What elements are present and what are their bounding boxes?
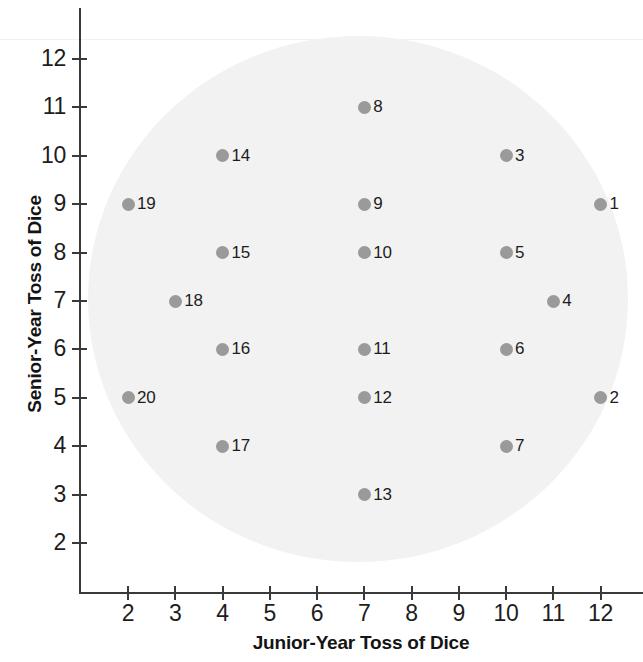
x-axis-tick (600, 586, 602, 600)
x-axis-tick (411, 586, 413, 600)
data-point-marker (358, 343, 371, 356)
data-point-label: 13 (373, 485, 392, 505)
y-axis-tick (72, 445, 87, 447)
data-point-label: 12 (373, 388, 392, 408)
data-point-label: 17 (232, 436, 251, 456)
y-axis-tick (72, 348, 87, 350)
data-point-label: 3 (515, 146, 524, 166)
x-axis-tick (316, 586, 318, 600)
data-point-marker (122, 198, 135, 211)
x-axis-tick (174, 586, 176, 600)
data-point-marker (216, 440, 229, 453)
data-point-label: 5 (515, 243, 524, 263)
data-point-marker (500, 246, 513, 259)
data-point-label: 8 (373, 97, 382, 117)
data-point-label: 4 (562, 291, 571, 311)
data-point-marker (500, 343, 513, 356)
y-axis-tick (72, 58, 87, 60)
data-point-label: 18 (184, 291, 203, 311)
data-point-marker (547, 295, 560, 308)
y-axis-tick (72, 397, 87, 399)
data-point-marker (358, 246, 371, 259)
data-point-marker (594, 198, 607, 211)
y-axis-tick (72, 155, 87, 157)
y-axis-tick (72, 494, 87, 496)
x-axis-tick-label: 12 (571, 600, 631, 627)
data-point-marker (358, 488, 371, 501)
data-point-label: 19 (137, 194, 156, 214)
data-point-label: 14 (232, 146, 251, 166)
data-point-label: 20 (137, 388, 156, 408)
x-axis-line (79, 592, 643, 594)
x-axis-tick (505, 586, 507, 600)
y-axis-tick (72, 203, 87, 205)
data-point-marker (216, 246, 229, 259)
y-axis-tick (72, 300, 87, 302)
y-axis-title: Senior-Year Toss of Dice (24, 4, 46, 604)
scatter-plot-figure: 23456789101112 23456789101112 1234567891… (0, 0, 643, 662)
data-point-marker (358, 391, 371, 404)
data-point-label: 6 (515, 339, 524, 359)
x-axis-tick (127, 586, 129, 600)
data-point-label: 2 (610, 388, 619, 408)
data-point-marker (500, 440, 513, 453)
y-axis-tick (72, 252, 87, 254)
x-axis-tick (458, 586, 460, 600)
data-point-marker (500, 149, 513, 162)
x-axis-title: Junior-Year Toss of Dice (79, 632, 643, 654)
data-point-label: 11 (373, 339, 390, 359)
data-point-marker (358, 198, 371, 211)
data-point-marker (216, 343, 229, 356)
data-point-label: 15 (232, 243, 251, 263)
data-point-label: 10 (373, 243, 392, 263)
data-point-label: 7 (515, 436, 524, 456)
data-point-label: 9 (373, 194, 382, 214)
data-point-label: 1 (610, 194, 619, 214)
data-point-marker (169, 295, 182, 308)
y-axis-tick (72, 542, 87, 544)
data-point-label: 16 (232, 339, 251, 359)
x-axis-tick (363, 586, 365, 600)
x-axis-tick (269, 586, 271, 600)
data-point-marker (122, 391, 135, 404)
data-point-marker (358, 101, 371, 114)
x-axis-tick (552, 586, 554, 600)
y-axis-tick (72, 106, 87, 108)
x-axis-tick (222, 586, 224, 600)
